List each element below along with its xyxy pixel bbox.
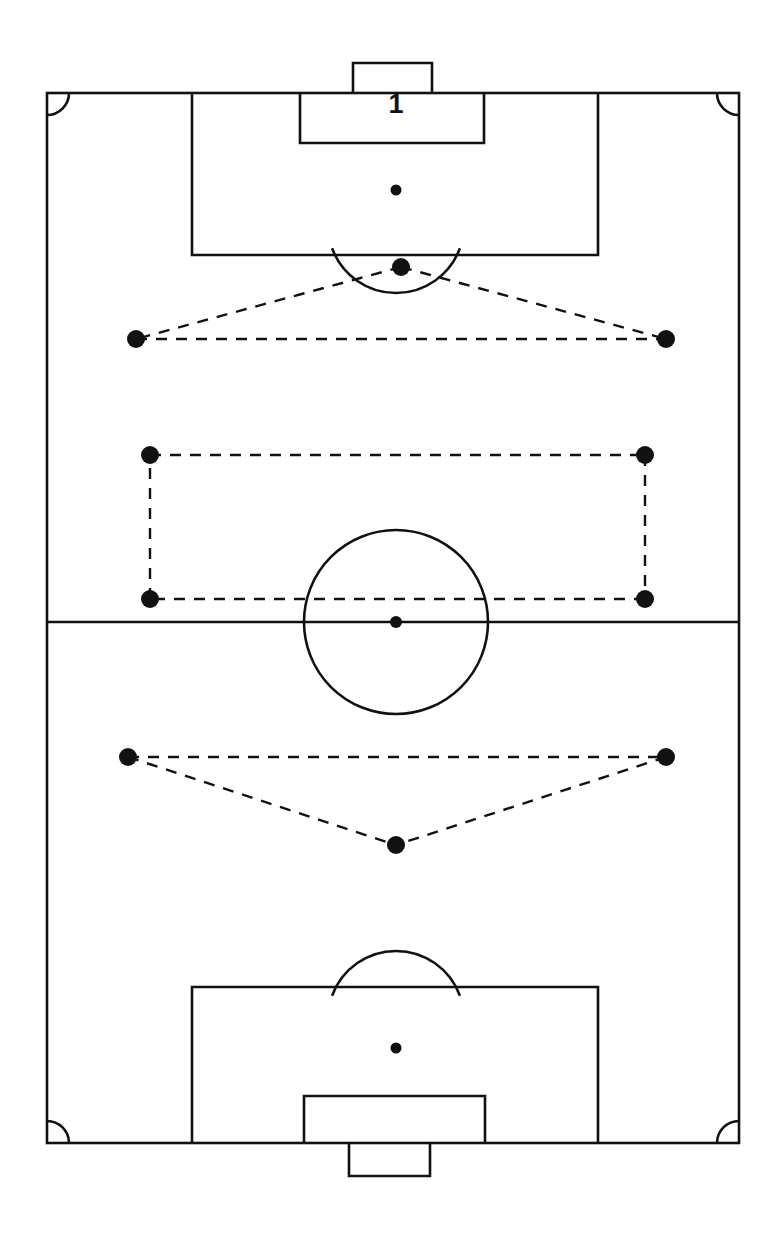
bottom-goal-area [304,1096,485,1143]
center-spot [390,616,402,628]
goalkeeper-number-label: 1 [388,89,403,119]
player-marker-winger-right[interactable] [657,330,675,348]
formation-diagram-root: 1 [0,0,781,1233]
bottom-goal [349,1143,430,1176]
corner-arc-bottom-left [47,1121,69,1143]
top-penalty-spot [391,185,402,196]
player-marker-sweeper-center[interactable] [387,836,405,854]
corner-arc-top-right [717,93,739,115]
corner-arc-bottom-right [717,1121,739,1143]
connection-forward-unit-right [401,267,666,339]
pitch-markings [47,93,739,1143]
bottom-penalty-spot [391,1043,402,1054]
player-marker-midfield-right-low[interactable] [636,590,654,608]
corner-arc-top-left [47,93,69,115]
player-marker-defender-left[interactable] [119,748,137,766]
bottom-penalty-area [192,987,598,1143]
connection-defence-unit-left [128,757,396,845]
pitch-canvas: 1 [0,0,781,1233]
connection-defence-unit-right [396,757,666,845]
player-markers [119,258,675,854]
bottom-penalty-arc [332,951,460,996]
player-marker-midfield-left-high[interactable] [141,446,159,464]
player-marker-striker-center[interactable] [392,258,410,276]
player-marker-defender-right[interactable] [657,748,675,766]
player-marker-midfield-right-high[interactable] [636,446,654,464]
player-marker-winger-left[interactable] [127,330,145,348]
player-marker-midfield-left-low[interactable] [141,590,159,608]
connection-forward-unit-left [136,267,401,339]
player-connection-lines [128,267,666,845]
